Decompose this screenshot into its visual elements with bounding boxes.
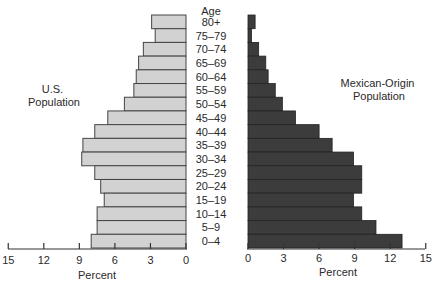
age-label: 65–69 <box>196 57 227 69</box>
mexican-origin-bar-80+ <box>248 15 255 29</box>
us-bar-40–44 <box>95 125 186 139</box>
age-label: 35–39 <box>196 139 227 151</box>
us-bar-25–29 <box>95 166 186 180</box>
us-bar-15–19 <box>104 193 186 207</box>
mexican-origin-bar-30–34 <box>248 152 353 166</box>
age-label: 55–59 <box>196 84 227 96</box>
right-tick-label: 9 <box>352 252 358 264</box>
us-bar-70–74 <box>143 42 186 56</box>
mexican-origin-population-label: Mexican-Origin Population <box>340 77 417 102</box>
right-tick-label: 3 <box>280 252 286 264</box>
age-category-labels: 80+75–7970–7465–6960–6455–5950–5445–4940… <box>196 16 227 247</box>
us-bar-10–14 <box>97 207 186 221</box>
age-label: 25–29 <box>196 167 227 179</box>
mexican-origin-bar-75–79 <box>248 29 252 43</box>
mexican-origin-bar-20–24 <box>248 179 362 193</box>
mexican-origin-bar-45–49 <box>248 111 295 125</box>
mexican-origin-bar-40–44 <box>248 125 319 139</box>
age-label: 20–24 <box>196 180 227 192</box>
us-bar-0–4 <box>91 234 186 248</box>
mexican-origin-bar-0–4 <box>248 234 402 248</box>
age-label: 60–64 <box>196 71 227 83</box>
right-tick-label: 12 <box>384 252 396 264</box>
right-tick-label: 15 <box>420 252 432 264</box>
us-population-bars <box>82 15 186 248</box>
age-label: 75–79 <box>196 30 227 42</box>
age-label: 15–19 <box>196 194 227 206</box>
mexican-origin-bar-25–29 <box>248 166 362 180</box>
left-tick-label: 12 <box>38 254 50 266</box>
left-tick-label: 0 <box>183 254 189 266</box>
mexican-origin-bar-35–39 <box>248 138 332 152</box>
us-bar-20–24 <box>101 179 186 193</box>
age-label: 40–44 <box>196 126 227 138</box>
us-population-label: U.S. Population <box>28 83 80 108</box>
age-label: 45–49 <box>196 112 227 124</box>
mexican-origin-bar-15–19 <box>248 193 353 207</box>
age-label: 30–34 <box>196 153 227 165</box>
age-label: 80+ <box>202 16 221 28</box>
us-bar-75–79 <box>155 29 186 43</box>
us-bar-5–9 <box>97 221 186 235</box>
mexican-origin-bar-10–14 <box>248 207 362 221</box>
us-bar-65–69 <box>139 56 186 70</box>
mexican-origin-bar-50–54 <box>248 97 282 111</box>
left-tick-label: 6 <box>112 254 118 266</box>
mexican-origin-bar-65–69 <box>248 56 266 70</box>
age-header: Age <box>201 5 221 17</box>
age-label: 5–9 <box>202 221 220 233</box>
right-tick-label: 0 <box>245 252 251 264</box>
right-tick-label: 6 <box>316 252 322 264</box>
right-x-axis-label: Percent <box>319 266 357 278</box>
left-tick-label: 3 <box>147 254 153 266</box>
us-bar-35–39 <box>83 138 186 152</box>
mexican-origin-bars <box>248 15 402 248</box>
mexican-origin-bar-70–74 <box>248 42 259 56</box>
left-x-axis-label: Percent <box>78 269 116 281</box>
age-label: 0–4 <box>202 235 220 247</box>
us-bar-60–64 <box>136 70 186 84</box>
us-bar-30–34 <box>82 152 186 166</box>
left-tick-label: 15 <box>2 254 14 266</box>
us-bar-45–49 <box>108 111 186 125</box>
us-bar-55–59 <box>134 84 186 98</box>
us-bar-80+ <box>152 15 186 29</box>
age-label: 70–74 <box>196 43 227 55</box>
mexican-origin-bar-60–64 <box>248 70 268 84</box>
age-label: 10–14 <box>196 208 227 220</box>
mexican-origin-bar-55–59 <box>248 84 275 98</box>
us-bar-50–54 <box>124 97 186 111</box>
age-label: 50–54 <box>196 98 227 110</box>
population-pyramid-chart: 80+75–7970–7465–6960–6455–5950–5445–4940… <box>0 0 433 289</box>
mexican-origin-bar-5–9 <box>248 221 376 235</box>
left-tick-label: 9 <box>76 254 82 266</box>
